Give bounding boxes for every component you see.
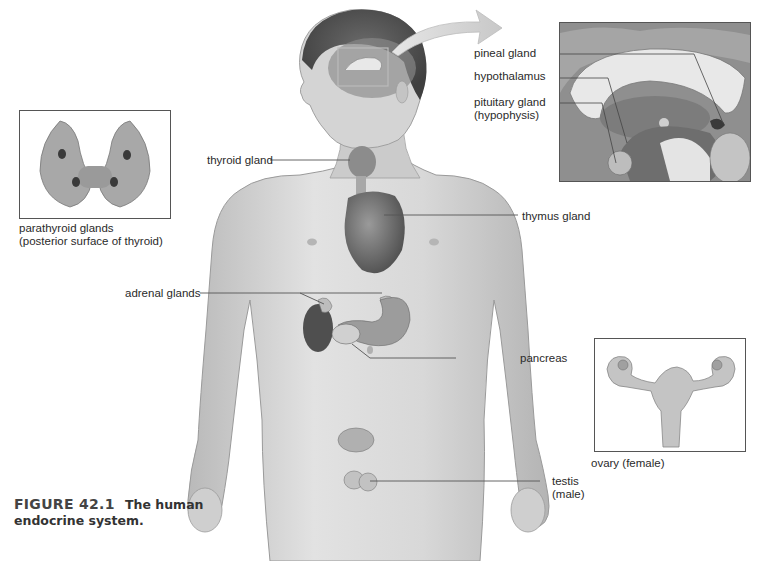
parathyroid-dot [58,149,66,159]
brain-inset [559,22,751,182]
label-thymus-gland: thymus gland [522,210,590,223]
label-parathyroid: parathyroid glands [19,222,114,235]
pancreas-organ [332,324,360,344]
label-adrenal-glands: adrenal glands [125,287,200,300]
label-testis-sub: (male) [552,488,585,501]
figure-caption: FIGURE 42.1 The human endocrine system. [14,496,203,529]
label-ovary: ovary (female) [591,457,665,470]
brain-section-illustration [560,23,750,181]
figure-number: FIGURE 42.1 [14,496,115,512]
label-hypothalamus: hypothalamus [474,70,546,83]
label-pituitary-gland: pituitary gland [474,96,546,109]
parathyroid-illustration [20,111,170,218]
thyroid-organ [348,146,376,178]
ovary-inset [594,338,746,452]
figure-title-line1: The human [125,497,203,512]
ovary-uterus-illustration [595,339,745,451]
label-pineal-gland: pineal gland [474,47,536,60]
label-thyroid-gland: thyroid gland [207,154,273,167]
label-testis: testis [552,475,579,488]
parathyroid-inset [19,110,171,219]
label-pancreas: pancreas [520,352,567,365]
label-parathyroid-sub: (posterior surface of thyroid) [19,235,163,248]
label-pituitary-sub: (hypophysis) [474,109,539,122]
figure-title-line2: endocrine system. [14,513,144,528]
